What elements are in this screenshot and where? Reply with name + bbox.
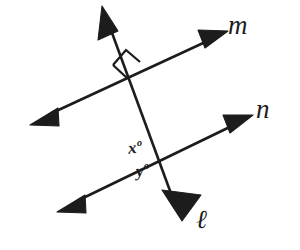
line-n-arrowhead-right xyxy=(223,115,253,133)
line-l-arrowhead-top xyxy=(98,6,118,40)
geometry-canvas xyxy=(0,0,300,250)
geometry-figure: m n ℓ xº yº xyxy=(0,0,300,250)
line-label-m: m xyxy=(228,12,248,39)
line-l-group xyxy=(98,6,201,221)
angle-label-y: yº xyxy=(135,161,149,179)
line-label-n: n xyxy=(256,96,270,123)
line-label-l: ℓ xyxy=(196,206,207,232)
line-m-arrowhead-left xyxy=(30,108,59,126)
line-m-segment xyxy=(52,38,214,113)
angle-label-x: xº xyxy=(127,138,142,156)
right-angle-square-icon xyxy=(113,50,140,65)
line-m-arrowhead-right xyxy=(198,30,228,48)
line-n-group xyxy=(57,115,253,213)
line-n-arrowhead-left xyxy=(57,195,86,213)
